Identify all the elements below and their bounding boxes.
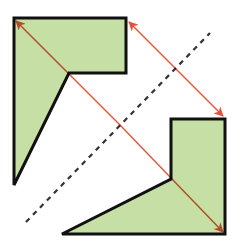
arrow-axis-to-b-image	[176, 69, 223, 116]
reflected-shape	[62, 119, 225, 234]
reflection-diagram	[0, 0, 238, 248]
original-shape	[14, 18, 126, 185]
arrow-b-to-axis	[129, 22, 176, 69]
